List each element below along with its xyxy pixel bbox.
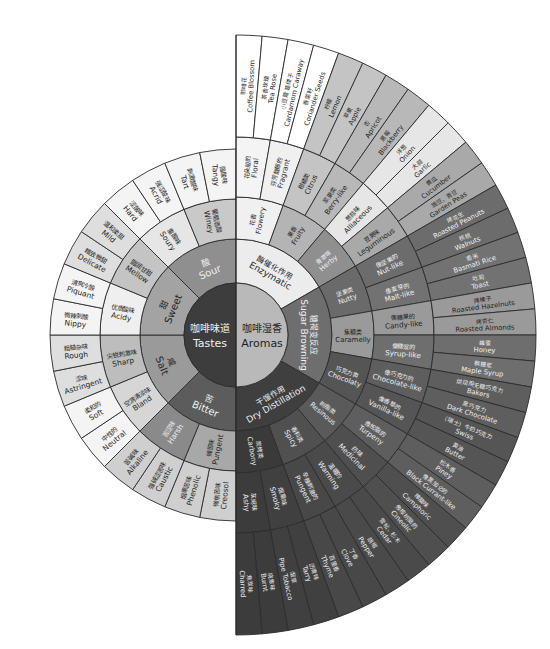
aroma-outer-label-burnt: 烧焦味Burnt — [259, 572, 277, 593]
svg-text:Aromas: Aromas — [241, 337, 283, 350]
svg-text:Tastes: Tastes — [192, 337, 227, 350]
label-zh: 糖褐变反应 — [309, 315, 319, 355]
taste-item-label-nippy: 微辣刺酸Nippy — [63, 310, 90, 330]
label-en: Floral — [250, 158, 261, 179]
aroma-middle-label-floral: 花朵般的Floral — [243, 155, 261, 180]
coffee-flavor-wheel: 苦Bitter辣苦味Pungent微焦苦味Creosol烟熏苦味Phenolic… — [0, 0, 550, 649]
label-en: Honey — [474, 346, 496, 355]
label-en: Caramelly — [335, 336, 371, 344]
svg-text:咖啡味道: 咖啡味道 — [190, 322, 230, 334]
label-en: Sugar Browning — [299, 299, 309, 370]
label-en: Charred — [238, 570, 247, 597]
svg-text:咖啡湿香: 咖啡湿香 — [242, 323, 282, 334]
taste-item-label-creosol: 微焦苦味Creosol — [211, 481, 231, 511]
taste-item-label-rough: 粗糙杂味Rough — [63, 341, 90, 361]
aroma-middle-label-ashy: 灰烬味Ashy — [241, 493, 258, 513]
aromas-center-label: 咖啡湿香Aromas — [241, 323, 283, 350]
label-en: Ashy — [241, 494, 252, 513]
